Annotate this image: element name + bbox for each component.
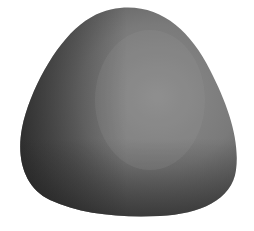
image-scene: smooth rounded gray stone [0, 0, 254, 231]
stone-image [0, 0, 254, 231]
